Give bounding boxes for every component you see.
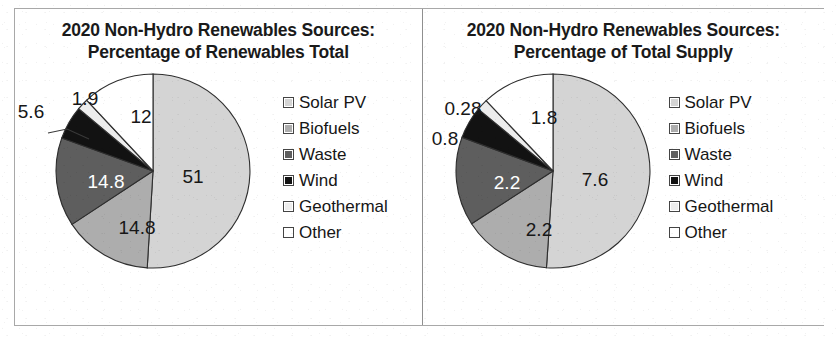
pie-value-other-right: 1.8 xyxy=(530,107,556,128)
pie-value-biofuels-right: 2.2 xyxy=(525,219,551,240)
pie-value-waste-right: 2.2 xyxy=(493,172,519,193)
legend-item-wind[interactable]: Wind xyxy=(283,167,423,193)
legend-label-biofuels: Biofuels xyxy=(685,119,745,138)
pie-chart-right: 7.6 2.2 2.2 0.8 0.28 1.8 xyxy=(453,71,653,271)
pie-chart-left: 51 14.8 14.8 5.6 1.9 12 xyxy=(53,71,253,271)
pie-svg-right: 7.6 2.2 2.2 0.8 0.28 1.8 xyxy=(453,71,653,271)
legend-swatch-wind xyxy=(669,175,680,186)
chart-panel-total-supply: 2020 Non-Hydro Renewables Sources: Perce… xyxy=(423,9,825,325)
legend-swatch-solar-pv xyxy=(669,97,680,108)
legend-item-geothermal[interactable]: Geothermal xyxy=(669,193,809,219)
chart-title-right-line2: Percentage of Total Supply xyxy=(429,41,819,63)
legend-swatch-other xyxy=(669,227,680,238)
legend-swatch-wind xyxy=(283,175,294,186)
legend-item-geothermal[interactable]: Geothermal xyxy=(283,193,423,219)
figure-sheet: 2020 Non-Hydro Renewables Sources: Perce… xyxy=(0,0,837,337)
legend-item-waste[interactable]: Waste xyxy=(283,141,423,167)
chart-title-left: 2020 Non-Hydro Renewables Sources: Perce… xyxy=(15,19,422,63)
plot-area-right: 7.6 2.2 2.2 0.8 0.28 1.8 Solar PV xyxy=(423,71,825,321)
pie-value-solar-pv-right: 7.6 xyxy=(581,169,607,190)
legend-item-biofuels[interactable]: Biofuels xyxy=(669,115,809,141)
legend-label-biofuels: Biofuels xyxy=(299,119,359,138)
pie-value-geothermal-right: 0.28 xyxy=(444,98,481,119)
legend-swatch-solar-pv xyxy=(283,97,294,108)
legend-item-solar-pv[interactable]: Solar PV xyxy=(669,89,809,115)
legend-swatch-geothermal xyxy=(283,201,294,212)
chart-title-left-line2: Percentage of Renewables Total xyxy=(21,41,416,63)
pie-value-wind-left: 5.6 xyxy=(18,101,44,122)
legend-label-solar-pv: Solar PV xyxy=(685,93,752,112)
chart-panel-renewables-total: 2020 Non-Hydro Renewables Sources: Perce… xyxy=(15,9,423,325)
pie-value-waste-left: 14.8 xyxy=(88,171,125,192)
legend-label-geothermal: Geothermal xyxy=(685,197,774,216)
plot-area-left: 51 14.8 14.8 5.6 1.9 12 Solar PV xyxy=(15,71,422,321)
legend-item-biofuels[interactable]: Biofuels xyxy=(283,115,423,141)
chart-title-left-line1: 2020 Non-Hydro Renewables Sources: xyxy=(62,20,375,40)
legend-right: Solar PV Biofuels Waste Wind xyxy=(669,89,809,245)
legend-label-geothermal: Geothermal xyxy=(299,197,388,216)
legend-swatch-other xyxy=(283,227,294,238)
legend-label-solar-pv: Solar PV xyxy=(299,93,366,112)
pie-svg-left: 51 14.8 14.8 5.6 1.9 12 xyxy=(53,71,253,271)
chart-title-right: 2020 Non-Hydro Renewables Sources: Perce… xyxy=(423,19,825,63)
legend-item-waste[interactable]: Waste xyxy=(669,141,809,167)
pie-chart-panels: 2020 Non-Hydro Renewables Sources: Perce… xyxy=(14,8,824,326)
legend-left: Solar PV Biofuels Waste Wind xyxy=(283,89,423,245)
legend-swatch-biofuels xyxy=(669,123,680,134)
legend-swatch-waste xyxy=(669,149,680,160)
legend-label-wind: Wind xyxy=(299,171,338,190)
legend-item-wind[interactable]: Wind xyxy=(669,167,809,193)
legend-item-solar-pv[interactable]: Solar PV xyxy=(283,89,423,115)
pie-value-solar-pv-left: 51 xyxy=(182,166,203,187)
chart-title-right-line1: 2020 Non-Hydro Renewables Sources: xyxy=(467,20,780,40)
legend-swatch-geothermal xyxy=(669,201,680,212)
legend-label-wind: Wind xyxy=(685,171,724,190)
legend-item-other[interactable]: Other xyxy=(283,219,423,245)
legend-label-other: Other xyxy=(685,223,728,242)
legend-label-waste: Waste xyxy=(299,145,347,164)
legend-label-other: Other xyxy=(299,223,342,242)
legend-item-other[interactable]: Other xyxy=(669,219,809,245)
pie-value-wind-right: 0.8 xyxy=(431,128,457,149)
pie-slices-right xyxy=(456,74,650,268)
legend-swatch-biofuels xyxy=(283,123,294,134)
legend-swatch-waste xyxy=(283,149,294,160)
pie-value-biofuels-left: 14.8 xyxy=(119,217,156,238)
pie-value-geothermal-left: 1.9 xyxy=(72,88,98,109)
legend-label-waste: Waste xyxy=(685,145,733,164)
pie-value-other-left: 12 xyxy=(130,106,151,127)
